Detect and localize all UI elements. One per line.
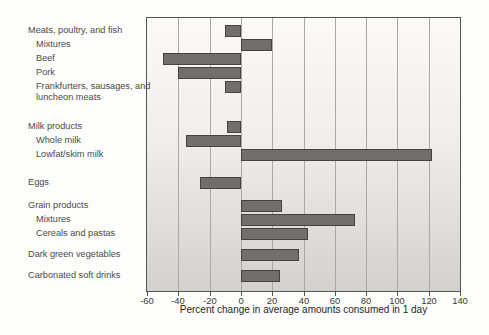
bar-beef bbox=[163, 53, 241, 65]
category-label: Milk products bbox=[28, 121, 82, 132]
bar-mixtures bbox=[241, 39, 272, 51]
x-axis-title: Percent change in average amounts consum… bbox=[140, 304, 467, 316]
category-label: Carbonated soft drinks bbox=[28, 270, 120, 281]
category-label: Beef bbox=[36, 53, 55, 64]
category-label: Meats, poultry, and fish bbox=[28, 25, 122, 36]
plot-area bbox=[146, 17, 461, 292]
bar-whole-milk bbox=[186, 135, 241, 147]
bar-milk-products bbox=[227, 121, 241, 133]
bar-mixtures bbox=[241, 214, 355, 226]
bar-carbonated-soft-drinks bbox=[241, 270, 280, 282]
bar-chart-figure: Meats, poultry, and fishMixturesBeefPork… bbox=[0, 0, 489, 335]
bar-frankfurters-sausages-and-luncheon-meats bbox=[225, 81, 241, 93]
bar-pork bbox=[178, 67, 241, 79]
category-label: Pork bbox=[36, 67, 55, 78]
category-label: Frankfurters, sausages, and luncheon mea… bbox=[36, 81, 158, 102]
category-label: Mixtures bbox=[36, 39, 71, 50]
category-label: Whole milk bbox=[36, 135, 81, 146]
bar-lowfat-skim-milk bbox=[241, 149, 432, 161]
bar-cereals-and-pastas bbox=[241, 228, 308, 240]
bar-grain-products bbox=[241, 200, 282, 212]
bar-dark-green-vegetables bbox=[241, 249, 299, 261]
category-label: Grain products bbox=[28, 200, 88, 211]
category-label: Lowfat/skim milk bbox=[36, 149, 103, 160]
category-label: Dark green vegetables bbox=[28, 249, 120, 260]
category-label: Mixtures bbox=[36, 214, 71, 225]
category-label: Eggs bbox=[28, 177, 49, 188]
bar-eggs bbox=[200, 177, 241, 189]
category-label: Cereals and pastas bbox=[36, 228, 115, 239]
bar-meats-poultry-and-fish bbox=[225, 25, 241, 37]
